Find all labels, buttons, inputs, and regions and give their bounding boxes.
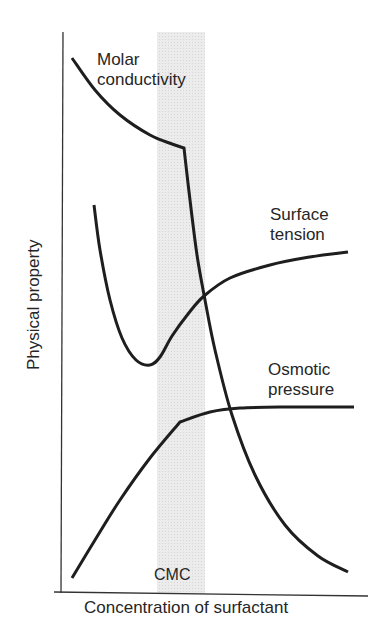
x-axis-label: Concentration of surfactant	[84, 598, 288, 618]
cmc-label: CMC	[154, 565, 190, 585]
surface-label-line2: tension	[270, 225, 325, 245]
y-axis-label: Physical property	[24, 240, 44, 370]
y-axis	[61, 32, 63, 593]
molar-label-line1: Molar	[97, 50, 140, 70]
cmc-band	[157, 32, 205, 594]
molar-label-line2: conductivity	[97, 70, 186, 90]
osmotic-label-line1: Osmotic	[268, 360, 330, 380]
x-axis	[54, 592, 368, 596]
surface-label-line1: Surface	[270, 205, 329, 225]
osmotic-label-line2: pressure	[268, 380, 334, 400]
chart-canvas	[0, 0, 387, 632]
